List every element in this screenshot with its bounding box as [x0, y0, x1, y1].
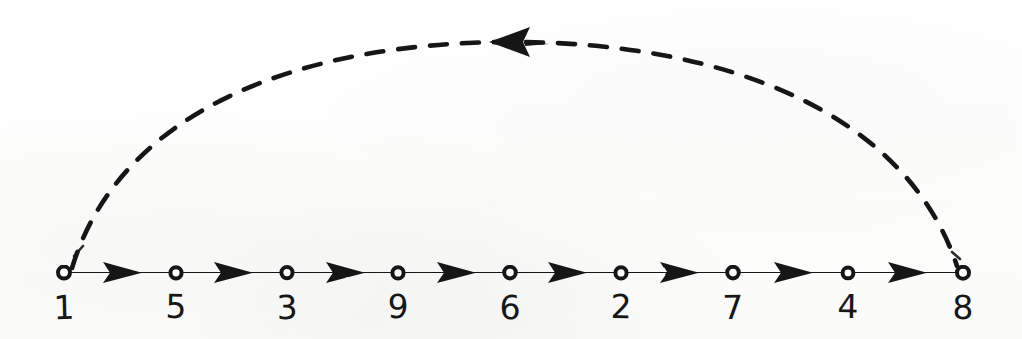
node-label-8: 8	[952, 291, 973, 324]
stray-pencil-marks	[74, 246, 960, 259]
node-label-2: 2	[610, 290, 631, 323]
node-label-3: 3	[276, 291, 298, 325]
figure-canvas: 1 5 3 9 6 2 7 4 8	[0, 0, 1022, 339]
node-label-6: 6	[499, 291, 521, 324]
node-circle	[58, 267, 70, 279]
dashed-return-edge-8-to-1	[72, 42, 957, 268]
node-circle	[392, 267, 403, 278]
node-circle	[615, 267, 626, 278]
node-label-9: 9	[387, 290, 409, 324]
node-circle	[727, 267, 739, 279]
node-circle	[281, 267, 292, 278]
node-circle	[170, 267, 181, 278]
node-circle	[504, 267, 516, 279]
node-circle	[843, 268, 854, 279]
node-label-4: 4	[837, 290, 859, 323]
node-label-7: 7	[722, 291, 744, 325]
node-label-5: 5	[165, 290, 187, 323]
node-label-1: 1	[53, 291, 75, 325]
node-circle	[957, 267, 969, 279]
